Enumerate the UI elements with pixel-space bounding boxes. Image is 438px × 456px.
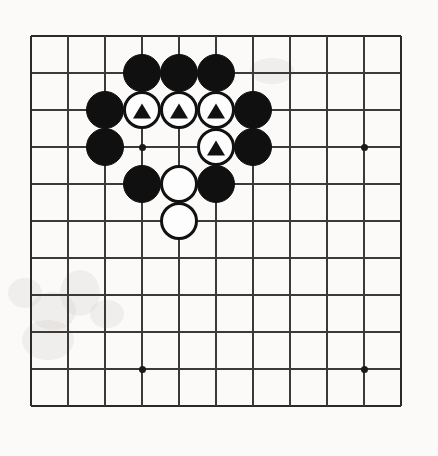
stone-black[interactable] (86, 128, 124, 166)
triangle-mark-icon (207, 140, 225, 155)
stone-black[interactable] (197, 165, 235, 203)
stone-white-marked[interactable] (197, 91, 235, 129)
grid-line-vertical (363, 36, 365, 406)
stone-black[interactable] (123, 165, 161, 203)
grid-line-vertical (67, 36, 69, 406)
stone-black[interactable] (86, 91, 124, 129)
stone-white-marked[interactable] (197, 128, 235, 166)
stone-black[interactable] (234, 91, 272, 129)
stone-black[interactable] (234, 128, 272, 166)
go-board-diagram (0, 0, 438, 456)
star-point (139, 366, 146, 373)
stone-black[interactable] (160, 54, 198, 92)
triangle-mark-icon (170, 103, 188, 118)
stone-black[interactable] (123, 54, 161, 92)
grid-line-vertical (289, 36, 291, 406)
stone-white-marked[interactable] (123, 91, 161, 129)
stone-black[interactable] (197, 54, 235, 92)
stone-white[interactable] (160, 165, 198, 203)
stone-white-marked[interactable] (160, 91, 198, 129)
star-point (139, 144, 146, 151)
triangle-mark-icon (133, 103, 151, 118)
stone-white[interactable] (160, 202, 198, 240)
grid-line-vertical (326, 36, 328, 406)
star-point (361, 144, 368, 151)
grid-line-vertical (400, 36, 402, 406)
star-point (361, 366, 368, 373)
grid-line-vertical (30, 36, 32, 406)
triangle-mark-icon (207, 103, 225, 118)
